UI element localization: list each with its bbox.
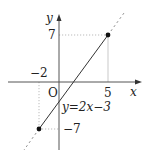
tick-y-neg7: −7 bbox=[63, 122, 81, 136]
function-line-dashed-lower bbox=[24, 129, 39, 150]
x-axis-arrow-icon bbox=[135, 80, 142, 85]
origin-label: O bbox=[48, 86, 58, 100]
tick-x-5: 5 bbox=[104, 86, 112, 100]
point-5-7 bbox=[106, 33, 111, 38]
y-axis-label: y bbox=[45, 11, 53, 25]
y-axis-arrow-icon bbox=[57, 14, 62, 21]
equation-label: y=2x−3 bbox=[61, 100, 111, 114]
function-line-dashed-upper bbox=[108, 13, 124, 35]
x-axis-label: x bbox=[130, 85, 137, 99]
graph: y x O 7 −2 5 −7 y=2x−3 bbox=[0, 0, 152, 157]
tick-x-neg2: −2 bbox=[30, 66, 48, 80]
tick-y-7: 7 bbox=[48, 28, 56, 42]
point-neg2-neg7 bbox=[37, 127, 42, 132]
